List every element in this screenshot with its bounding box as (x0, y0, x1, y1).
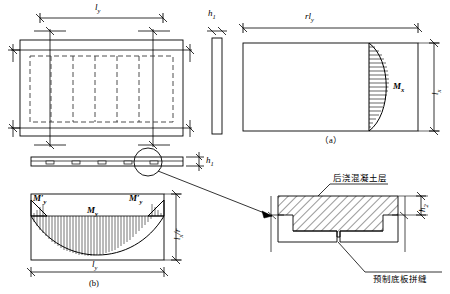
caption-panel-a: （a） (320, 133, 342, 145)
label-r-ly: rly (305, 12, 314, 23)
plan-corner-ticks (8, 27, 194, 149)
figure-root: ly h1 rly Mx lx （a） h1 M′y M′y My lx/r l… (0, 0, 450, 294)
label-myprime-right: M′y (129, 194, 142, 205)
caption-panel-b: (b) (89, 278, 99, 288)
section-thin-h1 (207, 27, 227, 134)
annotation-precast-slab-joint: 预制底板拼缝 (373, 275, 427, 284)
leader-cast-in-place (318, 184, 388, 196)
panel-a (239, 23, 440, 135)
dimension-ly-bottom (27, 267, 168, 277)
dimension-lx-over-r (164, 190, 182, 264)
label-ly-bottom: ly (92, 260, 97, 271)
panel-a-rect (243, 43, 418, 131)
moment-myprime-right (148, 200, 164, 216)
detail-cross-section (268, 184, 442, 272)
moment-my-curve (31, 216, 164, 255)
annotation-cast-in-place-layer: 后浇混凝土层 (333, 174, 387, 183)
label-my: My (87, 206, 98, 217)
label-lx-right: lx (431, 90, 442, 95)
moment-my-hatching (34, 216, 151, 256)
label-h1-mid: h1 (206, 156, 214, 167)
moment-mx-curve (369, 43, 389, 131)
dimension-rly (239, 23, 422, 33)
panel-b (27, 190, 182, 277)
leader-precast-joint (338, 242, 442, 272)
label-myprime-left: M′y (33, 194, 46, 205)
engineering-diagram (0, 0, 450, 294)
dimension-ly-top (36, 13, 167, 23)
label-ly-top: ly (95, 3, 100, 14)
slab-strip-section (31, 148, 272, 218)
label-lx-over-r: lx/r (173, 229, 184, 240)
label-h1-top: h1 (208, 9, 216, 20)
dimension-h1-mid (186, 152, 204, 171)
label-mx: Mx (393, 82, 404, 93)
label-h2: h2 (418, 204, 429, 212)
plan-dashed-panel (30, 56, 173, 122)
panel-b-rect (31, 194, 164, 260)
dimension-lx-right (418, 39, 440, 135)
plan-view-top-left (8, 13, 194, 149)
